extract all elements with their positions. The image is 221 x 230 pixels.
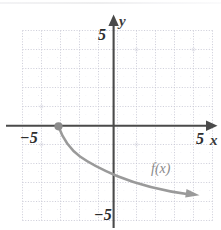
x-tick-label-positive-5: 5 — [196, 131, 204, 147]
x-tick-label-negative-5: −5 — [20, 130, 38, 146]
y-tick-label-positive-5: 5 — [98, 27, 106, 43]
coordinate-plane — [0, 0, 221, 230]
y-tick-label-negative-5: −5 — [94, 207, 112, 223]
function-curve-label: f(x) — [151, 162, 170, 176]
x-axis-label: x — [210, 133, 218, 148]
y-axis-label: y — [119, 14, 126, 29]
graph-figure: y x 5 −5 −5 5 f(x) — [0, 0, 221, 230]
curve-endpoint-dot — [54, 122, 62, 130]
